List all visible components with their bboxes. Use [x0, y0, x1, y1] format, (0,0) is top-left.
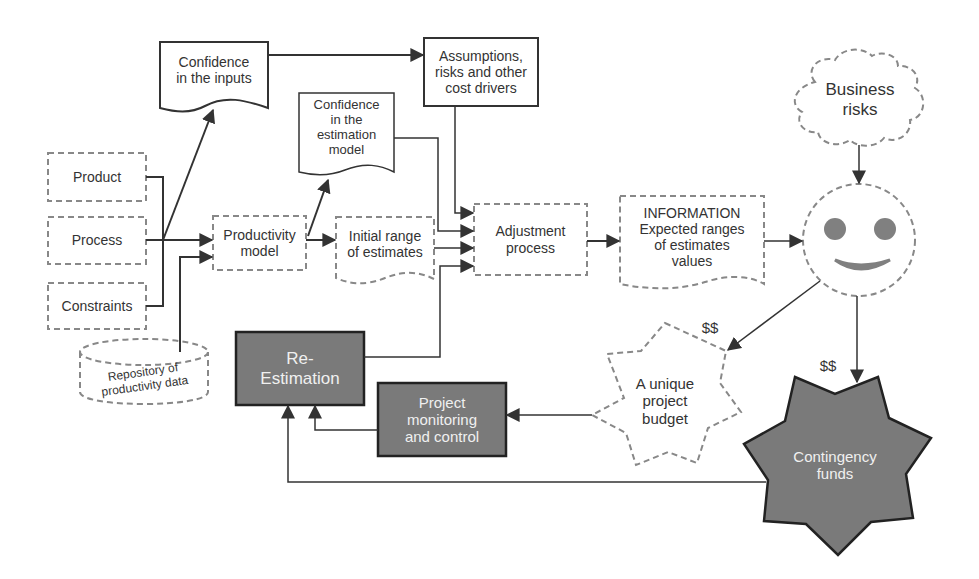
process-label: Process	[48, 217, 146, 264]
monitoring-label: Project monitoring and control	[378, 383, 506, 456]
initial-range-label: Initial range of estimates	[336, 219, 434, 269]
confidence-inputs-label: Confidence in the inputs	[160, 44, 268, 96]
contingency-money-label: $$	[808, 356, 848, 376]
contingency-label: Contingency funds	[770, 440, 900, 490]
budget-money-label: $$	[690, 318, 730, 338]
assumptions-label: Assumptions, risks and other cost driver…	[424, 38, 538, 106]
information-label: INFORMATION Expected ranges of estimates…	[620, 198, 764, 276]
business-risks-label: Business risks	[800, 72, 920, 128]
adjustment-label: Adjustment process	[474, 204, 587, 275]
product-label: Product	[48, 153, 146, 201]
productivity-model-label: Productivity model	[213, 216, 306, 270]
smiley-face	[803, 184, 915, 296]
re-estimation-label: Re- Estimation	[236, 332, 364, 405]
confidence-model-label: Confidence in the estimation model	[299, 93, 394, 163]
unique-budget-label: A unique project budget	[615, 365, 715, 437]
constraints-label: Constraints	[48, 283, 146, 329]
